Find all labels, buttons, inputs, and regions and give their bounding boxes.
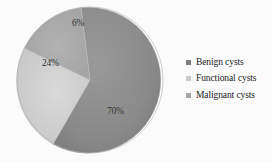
legend-swatch-icon [186,76,191,81]
pie-plot-area: 70% 24% 6% [0,0,180,162]
pie-slice-value-benign-cysts: 70% [107,106,124,116]
legend-label: Benign cysts [196,58,244,68]
legend-item-benign-cysts[interactable]: Benign cysts [186,54,272,71]
legend-label: Malignant cysts [196,91,255,101]
pie-slice-value-functional-cysts: 24% [42,58,59,68]
legend-label: Functional cysts [196,74,256,84]
pie-svg [0,0,180,162]
pie-slice-value-malignant-cysts: 6% [72,18,84,28]
chart-legend: Benign cysts Functional cysts Malignant … [186,54,272,104]
legend-swatch-icon [186,93,191,98]
legend-item-malignant-cysts[interactable]: Malignant cysts [186,87,272,104]
legend-item-functional-cysts[interactable]: Functional cysts [186,71,272,88]
pie-chart-figure: 70% 24% 6% Benign cysts Functional cysts… [0,0,272,162]
legend-swatch-icon [186,60,191,65]
